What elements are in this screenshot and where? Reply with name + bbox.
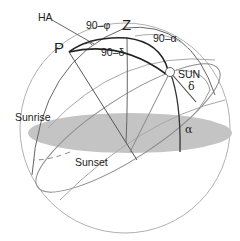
diurnal-path-hidden <box>34 152 70 160</box>
horizon-plane <box>28 113 232 153</box>
sunrise-label: Sunrise <box>15 111 51 123</box>
ha-angle-mark <box>85 43 92 45</box>
colatitude-label: 90–φ <box>86 19 111 31</box>
pole-label: P <box>54 39 64 56</box>
sun-marker <box>166 68 175 77</box>
coaltitude-label: 90–α <box>153 32 177 44</box>
celestial-sphere-diagram: HA P Z 90–φ 90–δ 90–α SUN δ α Sunrise Su… <box>0 0 240 241</box>
declination-label: δ <box>188 80 195 93</box>
altitude-label: α <box>185 123 193 136</box>
sun-label: SUN <box>178 68 200 80</box>
codeclination-label: 90–δ <box>101 46 125 58</box>
sunset-label: Sunset <box>75 156 108 168</box>
ha-label: HA <box>38 11 53 23</box>
zenith-label: Z <box>122 16 131 33</box>
